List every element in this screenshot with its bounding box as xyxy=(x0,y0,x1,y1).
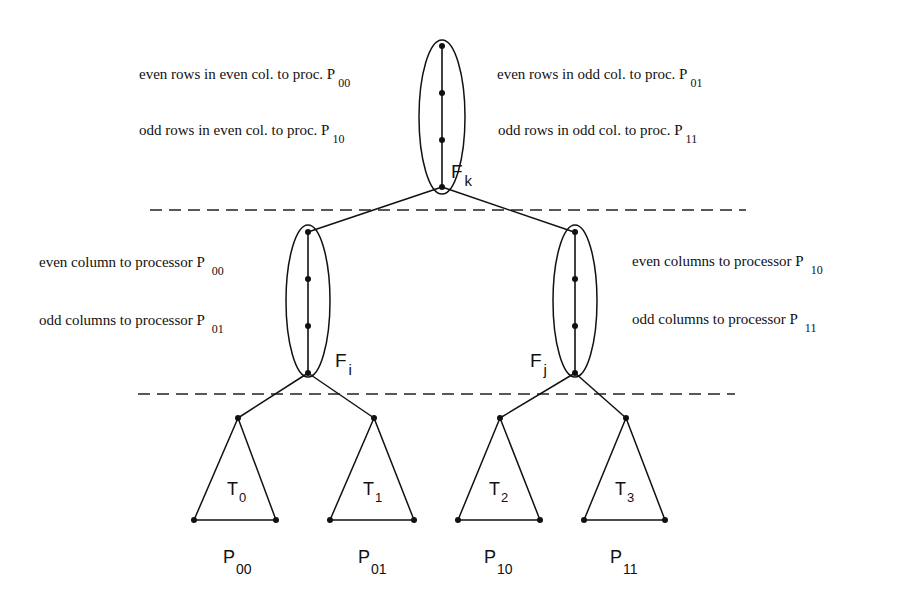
edge-fi-t1 xyxy=(308,373,374,418)
front-fk-label: Fk xyxy=(451,161,473,189)
processor-p00-label: P00 xyxy=(223,547,252,577)
note-fi-odd-columns: odd columns to processor P01 xyxy=(39,312,224,336)
edge-fi-t0 xyxy=(238,373,308,418)
processor-p01-label: P01 xyxy=(358,547,387,577)
note-fi-even-column: even column to processor P00 xyxy=(39,254,224,278)
note-fk-odd-rows-even-col: odd rows in even col. to proc. P10 xyxy=(139,122,344,146)
edge-fj-t2 xyxy=(500,373,575,418)
processor-p10-label: P10 xyxy=(484,547,513,577)
front-fi xyxy=(286,225,330,377)
elimination-tree-diagram: Fk Fi Fj even rows in even col. to proc.… xyxy=(0,0,899,607)
front-fj-label: Fj xyxy=(530,350,547,378)
subtree-t1-label: T1 xyxy=(363,479,382,505)
subtree-t0 xyxy=(191,415,279,523)
note-fk-odd-rows-odd-col: odd rows in odd col. to proc. P11 xyxy=(498,122,697,146)
subtree-t2 xyxy=(455,415,543,523)
note-fk-even-rows-even-col: even rows in even col. to proc. P00 xyxy=(139,66,350,90)
subtree-t0-label: T0 xyxy=(227,479,246,505)
note-fj-even-columns: even columns to processor P10 xyxy=(632,253,823,277)
subtree-t3 xyxy=(581,415,668,523)
edge-fj-t3 xyxy=(575,373,626,418)
note-fj-odd-columns: odd columns to processor P11 xyxy=(632,311,816,335)
processor-p11-label: P11 xyxy=(610,547,638,577)
subtree-t1 xyxy=(327,415,417,523)
subtree-t3-label: T3 xyxy=(615,479,634,505)
front-fj xyxy=(553,225,597,377)
front-fi-label: Fi xyxy=(335,350,352,378)
subtree-t2-label: T2 xyxy=(489,479,508,505)
note-fk-even-rows-odd-col: even rows in odd col. to proc. P01 xyxy=(497,66,702,90)
